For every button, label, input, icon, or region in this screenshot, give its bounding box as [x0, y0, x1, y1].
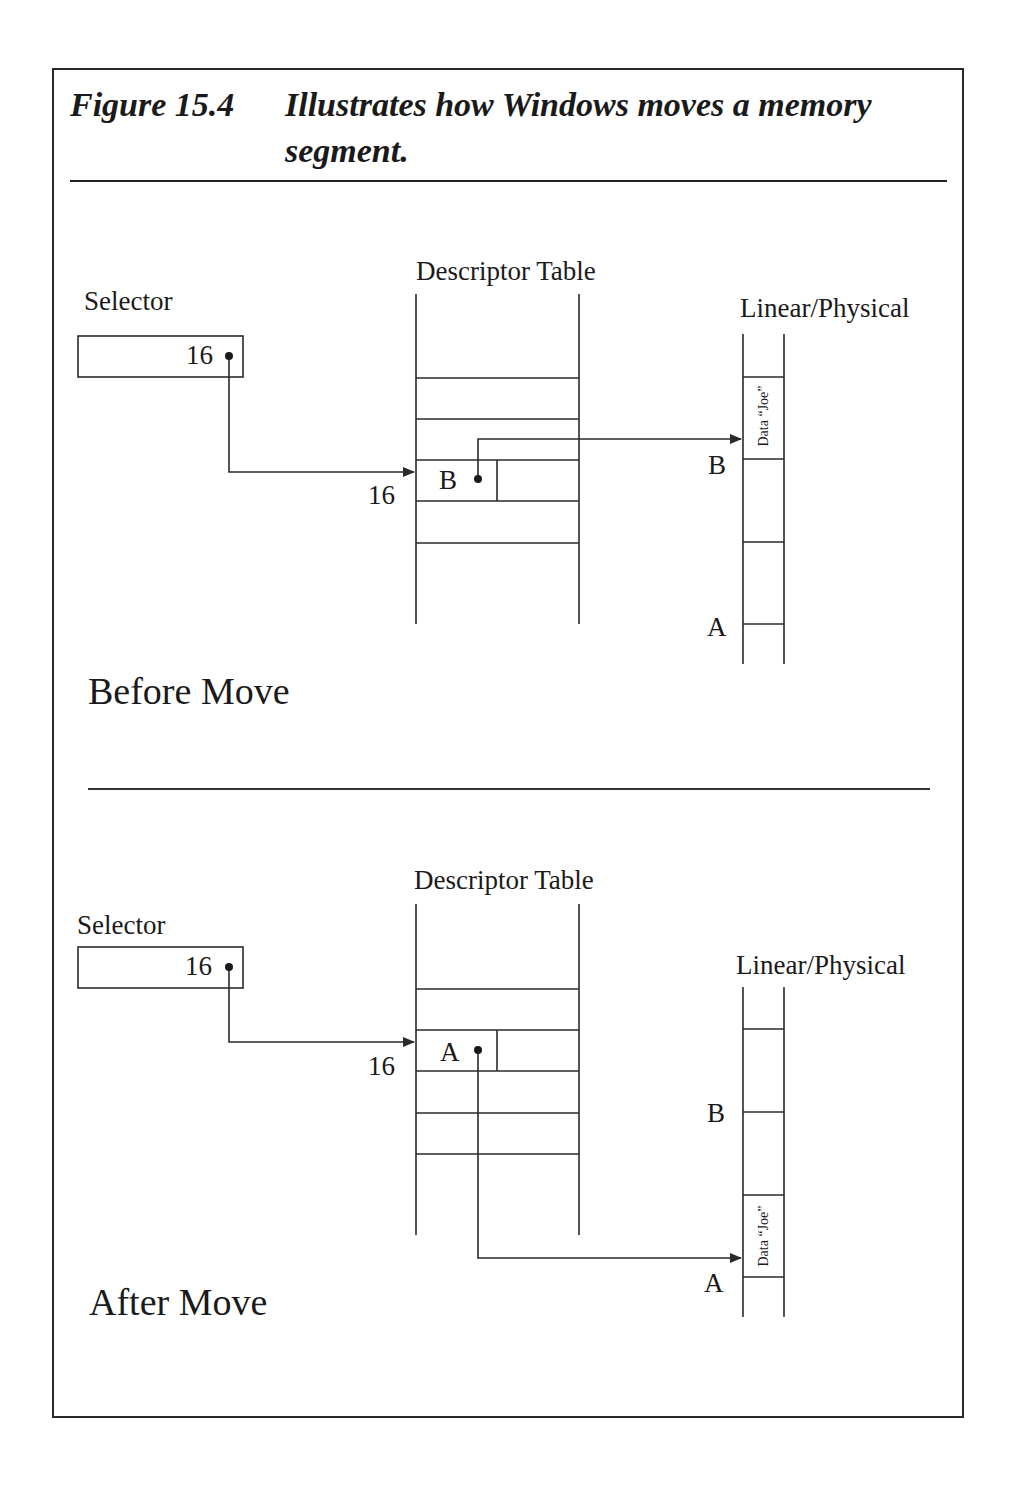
before-index-label: 16 — [368, 480, 395, 510]
after-index-label: 16 — [368, 1051, 395, 1081]
before-selector-box — [78, 336, 243, 377]
after-entry-base: A — [440, 1037, 460, 1067]
after-selector-label: Selector — [77, 910, 165, 940]
after-data-joe: Data “Joe” — [756, 1198, 772, 1274]
before-memory-label: Linear/Physical — [740, 293, 909, 323]
after-selector-dot — [225, 963, 233, 971]
before-selector-value: 16 — [186, 340, 213, 370]
after-marker-b: B — [707, 1098, 725, 1128]
before-selector-dot — [225, 352, 233, 360]
before-descriptor-table-label: Descriptor Table — [416, 256, 596, 286]
after-move-heading: After Move — [89, 1281, 267, 1323]
after-descriptor-table — [416, 904, 579, 1235]
after-selector-value: 16 — [185, 951, 212, 981]
diagram-lines — [0, 0, 1019, 1495]
after-selector-pointer — [229, 967, 414, 1042]
panel-divider — [88, 788, 930, 790]
before-marker-a: A — [707, 612, 727, 642]
before-marker-b: B — [708, 450, 726, 480]
before-descriptor-table — [416, 294, 579, 624]
before-base-pointer — [478, 439, 741, 479]
after-descriptor-table-label: Descriptor Table — [414, 865, 594, 895]
before-move-heading: Before Move — [88, 670, 290, 712]
before-selector-label: Selector — [84, 286, 172, 316]
after-selector-box — [78, 947, 243, 988]
before-base-dot — [474, 475, 482, 483]
before-entry-base: B — [439, 465, 457, 495]
after-marker-a: A — [704, 1268, 724, 1298]
before-selector-pointer — [229, 356, 414, 472]
before-data-joe: Data “Joe” — [756, 378, 772, 454]
after-memory-label: Linear/Physical — [736, 950, 905, 980]
after-base-dot — [474, 1046, 482, 1054]
